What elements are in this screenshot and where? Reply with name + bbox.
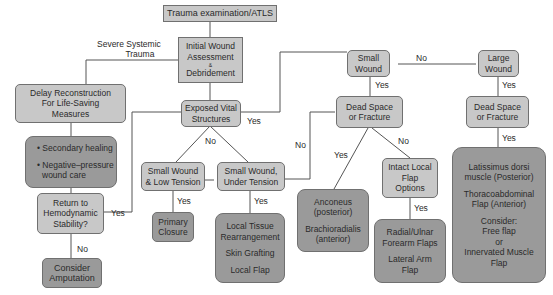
node-text: Small Wound	[148, 166, 198, 177]
node-text: Flap (Anterior)	[472, 199, 526, 210]
node-dead-space-fracture-large: Dead Space or Fracture	[466, 96, 529, 128]
node-text: or Fracture	[349, 112, 391, 123]
node-delay-reconstruction: Delay Reconstruction For Life-Saving Mea…	[15, 84, 126, 123]
node-large-wound: Large Wound	[478, 50, 519, 77]
edge-label-small-wound-yes: Yes	[375, 80, 389, 90]
node-small-wound: Small Wound	[347, 50, 390, 77]
node-text: Intact Local	[388, 162, 431, 173]
node-text: Local Flap	[230, 265, 269, 276]
node-small-wound-under-tension: Small Wound, Under Tension	[217, 162, 285, 191]
edge-label-dead-space-yes: Yes	[334, 150, 348, 160]
edge-label-severe-trauma: Severe Systemic Trauma	[97, 39, 161, 59]
node-radial-ulnar-forearm-flaps: Radial/Ulnar Forearm Flaps Lateral Arm F…	[374, 219, 446, 283]
edge-label-exposed-no: No	[205, 136, 216, 146]
node-text: Debridement	[186, 68, 235, 79]
node-text: • Secondary healing	[37, 143, 113, 154]
node-consider-amputation: Consider Amputation	[42, 258, 102, 288]
node-text: Exposed Vital	[185, 103, 237, 114]
node-text: Structures	[192, 114, 231, 125]
node-dead-space-fracture-small: Dead Space or Fracture	[336, 96, 403, 128]
node-text: Innervated Muscle	[464, 247, 533, 258]
node-anconeus-brachioradialis: Anconeus (posterior) Brachioradialis (an…	[297, 189, 369, 252]
node-return-hemodynamic-stability: Return to Hemodynamic Stability?	[37, 193, 104, 234]
node-secondary-healing: • Secondary healing • Negative–pressure …	[25, 136, 117, 188]
node-text: Under Tension	[224, 177, 279, 188]
node-text: Wound	[355, 64, 382, 75]
edge-label-exposed-yes: Yes	[247, 116, 261, 126]
node-text: & Low Tension	[145, 177, 200, 188]
node-text: Delay Reconstruction	[30, 88, 111, 99]
node-text: Wound	[485, 64, 512, 75]
node-text: Local Tissue	[226, 221, 273, 232]
node-text: Closure	[158, 227, 187, 238]
node-text: Small	[358, 53, 379, 64]
edge-label-large-wound-yes: Yes	[502, 80, 516, 90]
node-text: Consider	[54, 263, 90, 274]
node-trauma-examination: Trauma examination/ATLS	[163, 5, 277, 22]
node-text: or Fracture	[477, 112, 519, 123]
node-text: (anterior)	[316, 234, 350, 245]
node-latissimus-dorsi: Latissimus dorsi muscle (Posterior) Thor…	[452, 147, 546, 283]
node-primary-closure: Primary Closure	[152, 212, 194, 242]
node-text: • Negative–pressure	[37, 160, 114, 171]
node-text: Latissimus dorsi	[469, 162, 530, 173]
node-text: Flap	[402, 173, 419, 184]
node-small-wound-low-tension: Small Wound & Low Tension	[141, 162, 205, 191]
node-text: Lateral Arm	[388, 254, 431, 265]
node-text: (posterior)	[314, 207, 353, 218]
edge-label-intact-yes: Yes	[414, 203, 428, 213]
node-text: wound care	[37, 170, 86, 181]
edge-label-low-tension-yes: Yes	[177, 196, 191, 206]
edge-label-dead-space-large-yes: Yes	[502, 133, 516, 143]
node-text: Flap	[402, 265, 419, 276]
node-text: Thoracoabdominal	[464, 189, 534, 200]
node-text: Primary	[158, 217, 187, 228]
edge-label-return-yes: Yes	[111, 208, 125, 218]
node-initial-wound-assessment: Initial Wound Assessment & Debridement	[178, 37, 243, 83]
node-text: Brachioradialis	[305, 224, 361, 235]
node-text: For Life-Saving	[42, 98, 100, 109]
edge-label-under-tension-no: No	[295, 140, 306, 150]
node-text: Flap	[491, 258, 508, 269]
node-text: Options	[395, 183, 424, 194]
node-text: Skin Grafting	[225, 248, 274, 259]
node-text: Amputation	[49, 273, 95, 284]
node-text: Dead Space	[474, 102, 521, 113]
node-text: Anconeus	[314, 197, 352, 208]
label-text: Severe Systemic	[97, 39, 161, 49]
node-text: Free flap	[482, 226, 516, 237]
node-text: Consider:	[481, 216, 517, 227]
flowchart: Trauma examination/ATLS Initial Wound As…	[0, 0, 553, 295]
edge-label-return-no: No	[77, 244, 88, 254]
edge-label-dead-space-no: No	[398, 136, 409, 146]
node-text: Radial/Ulnar	[387, 227, 434, 238]
node-text: Dead Space	[346, 102, 393, 113]
node-text: Assessment	[187, 52, 233, 63]
node-intact-local-flap-options: Intact Local Flap Options	[382, 158, 438, 198]
node-text: Large	[488, 53, 510, 64]
node-text: or	[495, 237, 503, 248]
node-local-tissue-rearrangement: Local Tissue Rearrangement Skin Grafting…	[215, 213, 285, 283]
node-text: Trauma examination/ATLS	[167, 8, 273, 19]
node-text: Stability?	[53, 219, 88, 230]
node-text: Return to	[53, 198, 88, 209]
label-text: Trauma	[97, 49, 161, 59]
node-text: muscle (Posterior)	[465, 172, 534, 183]
node-text: Forearm Flaps	[382, 238, 437, 249]
edge-label-under-tension-yes: Yes	[254, 196, 268, 206]
node-text: Initial Wound	[186, 41, 235, 52]
edge-label-small-wound-no: No	[416, 53, 427, 63]
node-exposed-vital-structures: Exposed Vital Structures	[181, 100, 241, 127]
node-text: Hemodynamic	[43, 208, 97, 219]
node-text: Small Wound,	[225, 166, 278, 177]
node-text: Rearrangement	[220, 232, 279, 243]
node-text: Measures	[52, 109, 89, 120]
